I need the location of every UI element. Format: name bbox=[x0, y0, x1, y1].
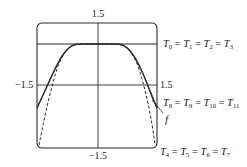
subscript: 3 bbox=[230, 43, 233, 50]
label-t0-t3: T0 = T1 = T2 = T3 bbox=[163, 39, 233, 51]
equals: = bbox=[172, 146, 178, 157]
equals: = bbox=[215, 38, 221, 49]
equals: = bbox=[212, 146, 218, 157]
taylor-figure: 1.5 −1.5 1.5 −1.5 T0 = T1 = T2 = T3 T8 =… bbox=[0, 0, 247, 167]
equals: = bbox=[175, 97, 181, 108]
equals: = bbox=[219, 97, 225, 108]
tick-right: 1.5 bbox=[160, 80, 173, 90]
subscript: 7 bbox=[227, 151, 230, 158]
t4-dashed-curve bbox=[39, 44, 155, 145]
subscript: 6 bbox=[206, 151, 209, 158]
subscript: 11 bbox=[233, 102, 239, 109]
subscript: 4 bbox=[166, 151, 169, 158]
label-t4-t7: T4 = T5 = T6 = T7 bbox=[160, 147, 230, 159]
subscript: 1 bbox=[189, 43, 192, 50]
tick-left: −1.5 bbox=[15, 80, 33, 90]
plot-canvas bbox=[0, 0, 247, 167]
equals: = bbox=[192, 146, 198, 157]
subscript: 5 bbox=[186, 151, 189, 158]
tick-top: 1.5 bbox=[92, 9, 105, 19]
equals: = bbox=[195, 38, 201, 49]
subscript: 10 bbox=[209, 102, 216, 109]
subscript: 9 bbox=[189, 102, 192, 109]
label-f: f bbox=[165, 114, 168, 125]
subscript: 8 bbox=[169, 102, 172, 109]
subscript: 2 bbox=[209, 43, 212, 50]
viewing-window-frame bbox=[37, 23, 157, 148]
equals: = bbox=[195, 97, 201, 108]
subscript: 0 bbox=[169, 43, 172, 50]
tick-bottom: −1.5 bbox=[89, 151, 107, 161]
label-t8-t11: T8 = T9 = T10 = T11 bbox=[163, 98, 239, 110]
equals: = bbox=[175, 38, 181, 49]
